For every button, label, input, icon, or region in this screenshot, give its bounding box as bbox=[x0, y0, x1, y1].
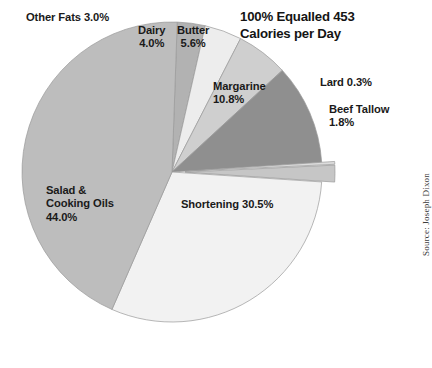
chart-title-line-2: Calories per Day bbox=[240, 26, 341, 41]
pie-slice-group bbox=[22, 22, 335, 322]
slice-label-lard: Lard 0.3% bbox=[320, 76, 372, 89]
slice-label-dairy-value: 4.0% bbox=[139, 37, 164, 49]
slice-label-margarine-name: Margarine bbox=[213, 80, 266, 92]
slice-label-salad-line-2: Cooking Oils bbox=[46, 197, 114, 209]
slice-label-dairy-name: Dairy bbox=[138, 24, 166, 36]
slice-label-butter-value: 5.6% bbox=[181, 37, 206, 49]
slice-label-lard-text: Lard 0.3% bbox=[320, 76, 372, 88]
slice-label-butter: Butter5.6% bbox=[177, 24, 209, 51]
slice-label-margarine-value: 10.8% bbox=[213, 93, 244, 105]
slice-label-beef-tallow-name: Beef Tallow bbox=[329, 103, 389, 115]
slice-label-beef-tallow: Beef Tallow1.8% bbox=[329, 103, 389, 130]
slice-label-salad-line-1: Salad & bbox=[46, 184, 86, 196]
slice-label-shortening-text: Shortening 30.5% bbox=[181, 198, 273, 210]
pie-chart-figure: 100% Equalled 453Calories per Day Other … bbox=[0, 0, 432, 368]
chart-title: 100% Equalled 453Calories per Day bbox=[240, 8, 355, 42]
source-attribution: Source: Joseph Dixon bbox=[421, 173, 431, 256]
slice-label-other-fats: Other Fats 3.0% bbox=[26, 11, 109, 24]
chart-title-line-1: 100% Equalled 453 bbox=[240, 9, 355, 24]
slice-label-dairy: Dairy4.0% bbox=[138, 24, 166, 51]
slice-label-beef-tallow-value: 1.8% bbox=[329, 116, 354, 128]
slice-label-salad-value: 44.0% bbox=[46, 211, 77, 223]
slice-label-butter-name: Butter bbox=[177, 24, 209, 36]
slice-label-margarine: Margarine10.8% bbox=[213, 80, 266, 107]
slice-label-other-fats-text: Other Fats 3.0% bbox=[26, 11, 109, 23]
source-attribution-text: Source: Joseph Dixon bbox=[421, 173, 431, 256]
slice-label-shortening: Shortening 30.5% bbox=[181, 198, 273, 211]
slice-label-salad-cooking-oils: Salad &Cooking Oils44.0% bbox=[46, 184, 114, 224]
